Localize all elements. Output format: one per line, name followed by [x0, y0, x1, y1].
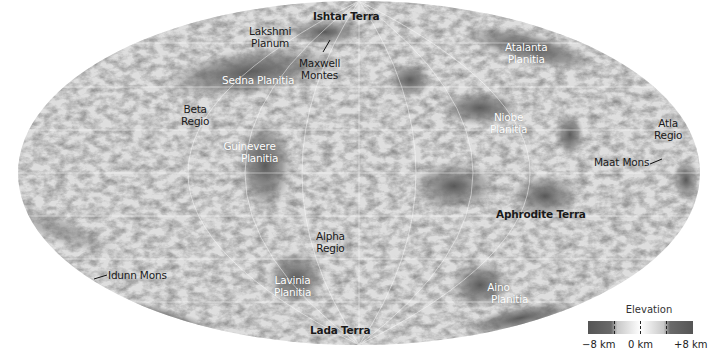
legend-tick-mid [640, 321, 642, 334]
label-lakshmi-planum: Lakshmi Planum [249, 25, 291, 49]
label-maxwell-montes: Maxwell Montes [299, 57, 340, 81]
label-alpha-regio: Alpha Regio [316, 230, 345, 254]
legend-tick-low [614, 321, 616, 334]
label-ishtar-terra: Ishtar Terra [313, 10, 380, 22]
label-aino-planitia: Aino Planitia [469, 281, 528, 305]
label-atalanta-planitia: Atalanta Planitia [505, 41, 548, 65]
elevation-legend: Elevation −8 km 0 km +8 km [582, 304, 716, 356]
label-sedna-planitia: Sedna Planitia [222, 74, 294, 86]
label-lada-terra: Lada Terra [310, 324, 370, 336]
legend-mid-label: 0 km [628, 339, 653, 350]
label-idunn-mons: Idunn Mons [108, 269, 167, 281]
legend-max-label: +8 km [674, 339, 707, 350]
legend-min-label: −8 km [582, 339, 615, 350]
legend-tick-high [666, 321, 668, 334]
label-maat-mons: Maat Mons [594, 156, 649, 168]
label-beta-regio: Beta Regio [181, 103, 209, 127]
label-niobe-planitia: Niobe Planitia [490, 111, 527, 135]
label-atla-regio: Atla Regio [654, 117, 682, 141]
legend-title: Elevation [582, 304, 716, 315]
label-lavinia-planitia: Lavinia Planitia [274, 274, 311, 298]
label-guinevere-planitia: Guinevere Planitia [221, 140, 278, 164]
label-aphrodite-terra: Aphrodite Terra [496, 208, 586, 220]
